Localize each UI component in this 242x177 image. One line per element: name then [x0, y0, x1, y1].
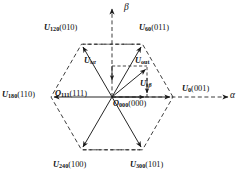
label-u180-sub: 180 — [8, 93, 17, 99]
label-o111-sub: 111 — [61, 92, 69, 98]
label-u180-bits: (110) — [17, 90, 35, 99]
label-u240: U240(100) — [53, 161, 86, 169]
label-u300: U300(101) — [130, 161, 163, 169]
label-u60-bits: (011) — [151, 23, 169, 32]
label-u120-sub: 120 — [50, 26, 59, 32]
beta-axis-label: β — [124, 2, 129, 12]
label-u300-sub: 300 — [136, 163, 145, 169]
vector-u120 — [83, 47, 112, 97]
label-u120: U120(010) — [44, 24, 77, 32]
label-uout-sub: out — [141, 59, 149, 65]
label-o000-bits: (000) — [128, 99, 146, 108]
label-u120-bits: (010) — [59, 23, 77, 32]
label-usbeta: Usβ — [140, 80, 152, 88]
vector-u60 — [112, 47, 141, 97]
label-u0: U0(001) — [182, 85, 209, 93]
label-u60: U60(011) — [139, 24, 169, 32]
label-u240-sub: 240 — [59, 163, 68, 169]
alpha-axis-label: α — [230, 90, 235, 100]
label-u180: U180(110) — [2, 91, 35, 99]
label-o000: O000(000) — [113, 100, 146, 108]
label-o111: O111(111) — [55, 90, 87, 98]
label-u300-bits: (101) — [145, 160, 163, 169]
space-vector-diagram: β α U120(010) U60(011) U180(110) O111(11… — [0, 0, 242, 177]
label-o000-sub: 000 — [119, 102, 128, 108]
label-u240-bits: (100) — [68, 160, 86, 169]
vector-u240 — [83, 97, 112, 147]
label-o111-bits: (111) — [70, 89, 88, 98]
label-usalpha-sub: sα — [90, 59, 96, 65]
label-uout: Uout — [135, 57, 150, 65]
label-u0-bits: (001) — [191, 84, 209, 93]
label-usalpha: Usα — [84, 57, 96, 65]
label-usbeta-sub: sβ — [146, 82, 152, 88]
